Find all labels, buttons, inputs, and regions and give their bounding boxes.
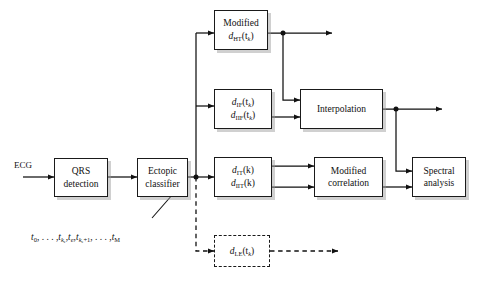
spectral-line-2: analysis [424,177,455,189]
block-it-tachogram[interactable]: dIT(k) dIIT(k) [214,157,272,197]
wire-interpolation-to-spectral [396,109,412,171]
le-formula: dLE(tk) [230,245,255,258]
ecg-input-label: ECG [14,160,32,170]
block-spectral-analysis[interactable]: Spectral analysis [412,157,466,197]
if-formula-1: dIF(tk) [232,96,254,109]
block-interpolation[interactable]: Interpolation [300,89,383,129]
wire-bus-to-le-dashed [196,177,214,251]
block-qrs-detection[interactable]: QRS detection [54,158,108,197]
correlation-line-2: correlation [328,177,369,189]
ectopic-line-1: Ectopic [148,165,177,177]
block-modified-ht[interactable]: Modified dHT(tk) [214,10,268,50]
it-formula-1: dIT(k) [232,164,254,177]
qrs-line-2: detection [64,178,99,190]
modified-ht-formula: dHT(tk) [228,30,253,43]
qrs-line-1: QRS [72,165,90,177]
interpolation-label: Interpolation [317,103,366,115]
block-le-dashed[interactable]: dLE(tk) [214,235,270,267]
wire-modified-ht-to-interpolation [283,33,300,100]
it-formula-2: dIIT(k) [231,177,255,190]
correlation-line-1: Modified [331,165,366,177]
beat-time-sequence: t0, . . . ,tke,te,tke+1, . . . ,tM [31,232,120,244]
spectral-line-1: Spectral [423,165,454,177]
if-formula-2: dIIF(tk) [231,109,256,122]
block-modified-correlation[interactable]: Modified correlation [314,157,383,197]
block-ectopic-classifier[interactable]: Ectopic classifier [137,158,188,197]
modified-ht-line-1: Modified [223,17,258,29]
block-if-interpolated[interactable]: dIF(tk) dIIF(tk) [214,89,272,129]
block-diagram-canvas: ECG QRS detection Ectopic classifier Mod… [0,0,480,286]
ectopic-line-2: classifier [145,178,179,190]
